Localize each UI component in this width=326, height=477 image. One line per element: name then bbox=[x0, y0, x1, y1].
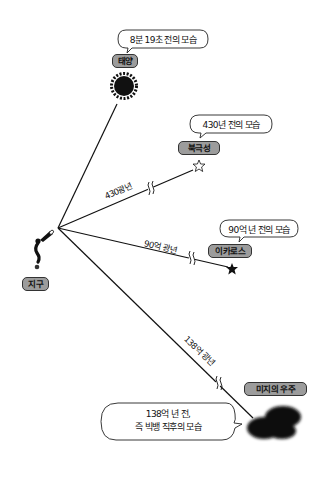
universe-bubble-line-2: 즉 빅뱅 직후의 모습 bbox=[104, 421, 232, 434]
sight-lines bbox=[58, 104, 253, 418]
person-with-telescope-icon bbox=[35, 229, 55, 269]
icarus-bubble-text: 90억 년 전의 모습 bbox=[220, 223, 298, 236]
earth-label: 지구 bbox=[22, 277, 49, 291]
break-mark-polaris-icon bbox=[145, 180, 157, 197]
unknown-universe-label: 미지의 우주 bbox=[244, 382, 307, 396]
universe-bubble-text: 138억 년 전, 즉 빅뱅 직후의 모습 bbox=[104, 408, 232, 434]
sun-label: 태양 bbox=[112, 54, 138, 68]
sun-icon bbox=[112, 74, 137, 99]
universe-bubble-line-1: 138억 년 전, bbox=[104, 408, 232, 421]
diagram-canvas bbox=[0, 0, 326, 477]
line-to-sun bbox=[58, 104, 117, 228]
filled-star-icon bbox=[226, 263, 238, 275]
icarus-label: 이카로스 bbox=[208, 244, 252, 258]
dark-blob-icon bbox=[247, 406, 301, 439]
break-mark-unknown-universe-icon bbox=[211, 375, 226, 391]
outline-star-icon bbox=[193, 160, 205, 172]
polaris-bubble-text: 430년 전의 모습 bbox=[190, 118, 272, 131]
sun-bubble-text: 8분 19초 전의 모습 bbox=[118, 33, 208, 46]
polaris-label: 북극성 bbox=[178, 141, 220, 155]
